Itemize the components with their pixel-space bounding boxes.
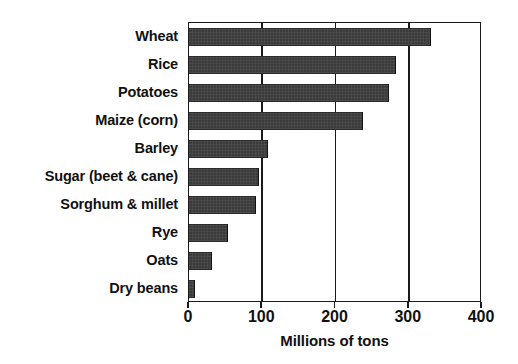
bar bbox=[189, 196, 256, 214]
bar bbox=[189, 84, 389, 102]
category-label: Wheat bbox=[0, 22, 183, 50]
category-label: Potatoes bbox=[0, 78, 183, 106]
category-label: Barley bbox=[0, 134, 183, 162]
bar bbox=[189, 140, 268, 158]
category-label: Oats bbox=[0, 246, 183, 274]
bar bbox=[189, 56, 396, 74]
tick-label: 300 bbox=[373, 308, 443, 326]
tick-label: 100 bbox=[226, 308, 296, 326]
category-label: Sorghum & millet bbox=[0, 190, 183, 218]
bar bbox=[189, 112, 363, 130]
category-axis-labels: WheatRicePotatoesMaize (corn)BarleySugar… bbox=[0, 22, 183, 302]
bars-layer bbox=[189, 23, 480, 301]
x-axis-title: Millions of tons bbox=[188, 332, 481, 349]
bar-chart: WheatRicePotatoesMaize (corn)BarleySugar… bbox=[0, 0, 518, 364]
tick-label: 200 bbox=[300, 308, 370, 326]
category-label: Rice bbox=[0, 50, 183, 78]
category-label: Rye bbox=[0, 218, 183, 246]
bar bbox=[189, 280, 195, 298]
bar bbox=[189, 252, 212, 270]
category-label: Maize (corn) bbox=[0, 106, 183, 134]
category-label: Dry beans bbox=[0, 274, 183, 302]
category-label: Sugar (beet & cane) bbox=[0, 162, 183, 190]
tick-label: 400 bbox=[446, 308, 516, 326]
plot-area bbox=[188, 22, 481, 302]
bar bbox=[189, 168, 259, 186]
bar bbox=[189, 224, 228, 242]
tick-label: 0 bbox=[153, 308, 223, 326]
bar bbox=[189, 28, 431, 46]
